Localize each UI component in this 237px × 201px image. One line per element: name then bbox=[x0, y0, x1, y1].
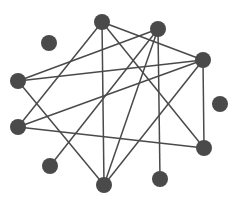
edge-n1-n11 bbox=[102, 22, 104, 185]
node-n6 bbox=[212, 96, 228, 112]
node-n10 bbox=[152, 171, 168, 187]
edge-n7-n8 bbox=[18, 127, 204, 148]
network-graph bbox=[0, 0, 237, 201]
edge-n2-n11 bbox=[104, 29, 158, 185]
node-n2 bbox=[150, 21, 166, 37]
node-n7 bbox=[10, 119, 26, 135]
edge-n4-n8 bbox=[203, 60, 204, 148]
node-n11 bbox=[96, 177, 112, 193]
node-n4 bbox=[195, 52, 211, 68]
node-n9 bbox=[42, 158, 58, 174]
edge-n2-n10 bbox=[158, 29, 160, 179]
node-n8 bbox=[196, 140, 212, 156]
edge-n5-n11 bbox=[18, 81, 104, 185]
node-n1 bbox=[94, 14, 110, 30]
node-n3 bbox=[41, 35, 57, 51]
node-n5 bbox=[10, 73, 26, 89]
